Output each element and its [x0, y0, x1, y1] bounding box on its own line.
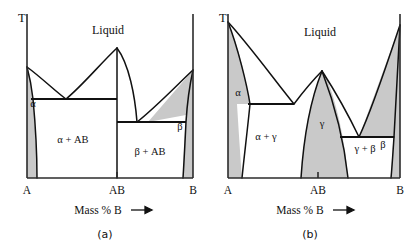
- panel-b-beta-label: β: [380, 139, 385, 150]
- panel-a-liquidus-ab-right: [117, 48, 137, 122]
- panel-a-beta-label: β: [177, 121, 182, 132]
- panel-b-alpha-solvus: [242, 104, 250, 178]
- panel-a: T Liquid α β α + AB β + AB A AB B Mass %…: [18, 11, 197, 241]
- panel-a-xtick-a: A: [23, 184, 32, 196]
- panel-b-liquid-label: Liquid: [304, 25, 336, 39]
- panel-b-gamma-label: γ: [319, 118, 325, 129]
- panel-b-y-axis-label: T: [219, 11, 227, 25]
- panel-b-x-axis-label: Mass % B: [276, 204, 324, 216]
- panel-a-y-axis-label: T: [18, 11, 26, 25]
- panel-a-beta-plus-ab-label: β + AB: [134, 146, 165, 157]
- panel-a-x-axis-arrow-icon: [131, 207, 152, 214]
- panel-a-xtick-b: B: [189, 184, 197, 196]
- panel-a-liquid-label: Liquid: [92, 23, 124, 37]
- panel-a-liquidus-ab-left: [66, 48, 117, 99]
- panel-b-beta-shaded-region: [359, 25, 400, 178]
- panel-b-caption: (b): [302, 228, 318, 241]
- figure-root: T Liquid α β α + AB β + AB A AB B Mass %…: [0, 0, 415, 250]
- panel-a-xtick-ab: AB: [109, 184, 125, 196]
- panel-b-gamma-plus-beta-label: γ + β: [353, 143, 375, 154]
- panel-a-alpha-label: α: [30, 98, 36, 109]
- panel-b-x-axis-arrow-icon: [333, 207, 354, 214]
- panel-b-alpha-label: α: [235, 87, 241, 98]
- panel-a-alpha-plus-ab-label: α + AB: [57, 134, 88, 145]
- panel-b-xtick-a: A: [224, 184, 233, 196]
- panel-b: T Liquid α γ β α + γ γ + β A AB B Mass %…: [219, 11, 404, 241]
- panel-b-alpha-plus-gamma-label: α + γ: [255, 131, 277, 142]
- panel-b-xtick-b: B: [396, 184, 404, 196]
- phase-diagram-figure: T Liquid α β α + AB β + AB A AB B Mass %…: [0, 0, 415, 250]
- panel-a-x-axis-label: Mass % B: [74, 204, 122, 216]
- panel-b-xtick-ab: AB: [310, 184, 326, 196]
- panel-a-caption: (a): [97, 228, 112, 241]
